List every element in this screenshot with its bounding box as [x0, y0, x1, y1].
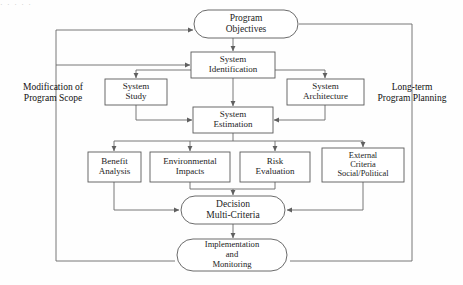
node-label-program-objectives: Objectives [226, 24, 267, 34]
node-risk-evaluation[interactable]: RiskEvaluation [240, 152, 310, 182]
node-label-external-criteria: Social/Political [337, 169, 389, 178]
edge-risk-to-decision [233, 182, 275, 189]
node-label-program-objectives: Program [230, 13, 263, 23]
node-label-system-architecture: System [312, 81, 339, 91]
side-label-text-long-term-program-planning: Long-term [392, 82, 433, 92]
node-environmental-impacts[interactable]: EnvironmentalImpacts [150, 152, 230, 182]
edge-external-to-decision [287, 182, 363, 210]
node-label-system-estimation: System [220, 109, 247, 119]
node-system-identification[interactable]: SystemIdentification [191, 52, 275, 78]
edge-benefit-to-decision [114, 182, 179, 210]
node-label-decision-multi-criteria: Decision [216, 199, 250, 209]
node-layer: ProgramObjectivesSystemIdentificationSys… [88, 10, 404, 271]
node-label-external-criteria: External [349, 151, 378, 160]
node-external-criteria[interactable]: ExternalCriteriaSocial/Political [322, 148, 404, 182]
edge-study-to-estimation [136, 105, 192, 120]
side-label-long-term-program-planning: Long-termProgram Planning [378, 82, 447, 103]
node-label-implementation-and-monitoring: and [226, 249, 239, 259]
side-label-text-long-term-program-planning: Program Planning [378, 93, 447, 103]
edge-identification-bus-left [136, 70, 191, 78]
node-label-risk-evaluation: Evaluation [256, 166, 295, 176]
node-benefit-analysis[interactable]: BenefitAnalysis [88, 152, 141, 182]
node-label-system-identification: System [220, 54, 247, 64]
edge-objectives-to-right-rail [299, 24, 412, 261]
node-label-environmental-impacts: Impacts [176, 166, 205, 176]
node-label-risk-evaluation: Risk [267, 156, 284, 166]
side-label-modification-of-program-scope: Modification ofProgram Scope [23, 82, 84, 103]
node-label-system-identification: Identification [209, 64, 258, 74]
node-label-benefit-analysis: Analysis [99, 166, 131, 176]
edge-identification-bus-right [275, 70, 325, 78]
node-label-external-criteria: Criteria [350, 160, 376, 169]
node-label-implementation-and-monitoring: Implementation [205, 239, 260, 249]
flowchart-page: · · · · · [0, 0, 463, 285]
node-label-system-study: System [123, 81, 150, 91]
node-decision-multi-criteria[interactable]: DecisionMulti-Criteria [181, 196, 285, 224]
node-system-study[interactable]: SystemStudy [105, 79, 167, 105]
node-label-decision-multi-criteria: Multi-Criteria [206, 210, 260, 220]
side-label-text-modification-of-program-scope: Program Scope [24, 93, 82, 103]
node-program-objectives[interactable]: ProgramObjectives [194, 10, 298, 38]
edge-architecture-to-estimation [274, 105, 325, 120]
program-evaluation-flowchart: ProgramObjectivesSystemIdentificationSys… [0, 0, 463, 285]
node-label-environmental-impacts: Environmental [163, 156, 217, 166]
node-label-system-estimation: Estimation [214, 119, 253, 129]
side-label-layer: Modification ofProgram ScopeLong-termPro… [23, 82, 447, 103]
node-implementation-and-monitoring[interactable]: ImplementationandMonitoring [177, 239, 287, 271]
node-label-system-architecture: Architecture [303, 91, 348, 101]
side-label-text-modification-of-program-scope: Modification of [23, 82, 84, 92]
node-system-estimation[interactable]: SystemEstimation [193, 107, 273, 133]
node-label-benefit-analysis: Benefit [101, 156, 128, 166]
node-label-implementation-and-monitoring: Monitoring [212, 259, 252, 269]
node-label-system-study: Study [125, 91, 147, 101]
edge-environmental-to-decision [190, 182, 233, 189]
node-system-architecture[interactable]: SystemArchitecture [287, 79, 364, 105]
